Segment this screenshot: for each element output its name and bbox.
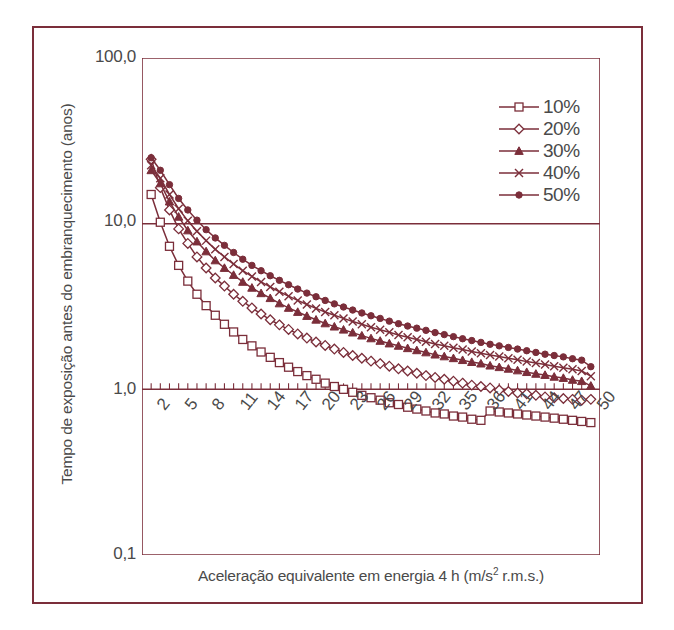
circle-filled-marker <box>203 226 209 232</box>
square-open-marker <box>220 320 228 328</box>
circle-filled-marker <box>560 354 566 360</box>
circle-filled-marker <box>304 290 310 296</box>
y-tick-10: 10,0 <box>104 211 136 231</box>
circle-filled-marker <box>414 325 420 331</box>
circle-filled-marker <box>497 185 541 205</box>
circle-filled-marker <box>157 167 163 173</box>
diamond-open-marker <box>183 239 193 249</box>
legend-item-30pct[interactable]: 30% <box>497 140 617 162</box>
x-cross-marker <box>193 227 201 235</box>
circle-filled-marker <box>551 352 557 358</box>
x-cross-marker <box>340 314 348 322</box>
circle-filled-marker <box>469 337 475 343</box>
circle-filled-marker <box>478 339 484 345</box>
x-tick-label: 35 <box>455 388 482 415</box>
x-tick-label: 17 <box>291 388 318 415</box>
diamond-open-marker <box>430 373 440 383</box>
x-cross-marker <box>358 320 366 328</box>
square-open-marker <box>285 363 293 371</box>
diamond-open-marker <box>256 309 266 319</box>
circle-filled-marker <box>588 363 594 369</box>
x-cross-marker <box>497 163 541 183</box>
x-tick-label: 29 <box>400 388 427 415</box>
x-tick-label: 20 <box>318 388 345 415</box>
legend-item-50pct[interactable]: 50% <box>497 184 617 206</box>
circle-filled-marker <box>404 323 410 329</box>
square-open-marker <box>202 302 210 310</box>
circle-filled-marker <box>212 235 218 241</box>
diamond-open-marker <box>421 371 431 381</box>
x-cross-marker <box>385 328 393 336</box>
x-cross-marker <box>349 317 357 325</box>
chart-legend: 10%20%30%40%50% <box>497 96 617 206</box>
diamond-open-marker <box>339 348 349 358</box>
triangle-filled-marker <box>266 294 274 302</box>
triangle-filled-marker <box>587 382 595 390</box>
circle-filled-marker <box>322 297 328 303</box>
circle-filled-marker <box>441 331 447 337</box>
legend-item-20pct[interactable]: 20% <box>497 118 617 140</box>
x-cross-marker <box>285 292 293 300</box>
x-tick-label: 26 <box>373 388 400 415</box>
circle-filled-marker <box>249 262 255 268</box>
square-open-marker <box>266 353 274 361</box>
diamond-open-marker <box>357 353 367 363</box>
diamond-open-marker <box>385 361 395 371</box>
y-tick-100: 100,0 <box>95 47 136 67</box>
circle-filled-marker <box>185 207 191 213</box>
circle-filled-marker <box>359 310 365 316</box>
circle-filled-marker <box>285 282 291 288</box>
square-open-marker <box>175 261 183 269</box>
diamond-open-marker <box>439 374 449 384</box>
x-tick-label: 2 <box>153 395 174 415</box>
diamond-open-marker <box>514 124 524 134</box>
x-cross-marker <box>248 272 256 280</box>
circle-filled-marker <box>349 307 355 313</box>
x-axis-tick-labels: 2581114172023262932353641444750 <box>142 390 612 500</box>
circle-filled-marker <box>496 343 502 349</box>
circle-filled-marker <box>295 286 301 292</box>
square-open-marker <box>193 290 201 298</box>
diamond-open-marker <box>394 364 404 374</box>
x-tick-label: 5 <box>181 395 202 415</box>
triangle-filled-marker <box>275 299 283 307</box>
square-open-marker <box>165 242 173 250</box>
x-cross-marker <box>294 296 302 304</box>
circle-filled-marker <box>514 346 520 352</box>
x-tick-label: 23 <box>346 388 373 415</box>
legend-item-10pct[interactable]: 10% <box>497 96 617 118</box>
legend-label: 10% <box>543 97 580 117</box>
legend-item-40pct[interactable]: 40% <box>497 162 617 184</box>
diamond-open-marker <box>284 325 294 335</box>
circle-filled-marker <box>258 268 264 274</box>
x-cross-marker <box>239 267 247 275</box>
circle-filled-marker <box>487 341 493 347</box>
x-cross-marker <box>275 288 283 296</box>
circle-filled-marker <box>194 217 200 223</box>
triangle-filled-marker <box>248 284 256 292</box>
circle-filled-marker <box>368 313 374 319</box>
circle-filled-marker <box>423 327 429 333</box>
circle-filled-marker <box>578 357 584 363</box>
x-cross-marker <box>266 283 274 291</box>
circle-filled-marker <box>395 320 401 326</box>
triangle-filled-marker <box>257 289 265 297</box>
diamond-open-marker <box>412 368 422 378</box>
x-cross-marker <box>175 205 183 213</box>
square-open-marker <box>257 348 265 356</box>
diamond-open-marker <box>330 344 340 354</box>
diamond-open-marker <box>320 341 330 351</box>
square-open-marker <box>275 359 283 367</box>
diamond-open-marker <box>302 333 312 343</box>
x-tick-label: 32 <box>428 388 455 415</box>
triangle-filled-marker <box>294 308 302 316</box>
square-open-marker <box>294 368 302 376</box>
x-tick-label: 14 <box>263 388 290 415</box>
circle-filled-marker <box>175 195 181 201</box>
diamond-open-marker <box>275 320 285 330</box>
x-tick-label: 47 <box>565 388 592 415</box>
circle-filled-marker <box>377 315 383 321</box>
circle-filled-marker <box>313 294 319 300</box>
circle-filled-marker <box>276 277 282 283</box>
y-tick-1: 1,0 <box>113 379 136 399</box>
